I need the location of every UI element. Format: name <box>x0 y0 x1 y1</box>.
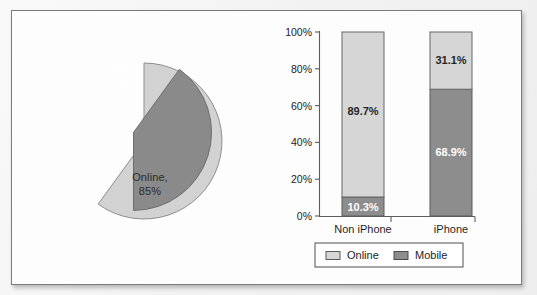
legend-label-online: Online <box>347 249 379 261</box>
pie-chart: Online, 85% Mobile, 15% <box>12 11 270 286</box>
chart-legend: Online Mobile <box>315 243 463 267</box>
legend-label-mobile: Mobile <box>415 249 447 261</box>
scanned-page-background: Online, 85% Mobile, 15% 100% <box>0 0 537 295</box>
pie-label-online-line2: 85% <box>139 185 161 197</box>
ytick-label-20: 20% <box>291 173 312 185</box>
pie-label-mobile-line2: 15% <box>106 77 128 89</box>
legend-swatch-mobile[interactable] <box>394 252 408 260</box>
pie-label-online-line1: Online, <box>132 171 168 183</box>
legend-swatch-online[interactable] <box>326 252 340 260</box>
pie-label-mobile-line1: Mobile, <box>99 63 135 75</box>
ytick-label-0: 0% <box>297 210 312 222</box>
xaxis-label-non-iphone: Non iPhone <box>334 223 392 235</box>
ytick-label-100: 100% <box>285 26 312 38</box>
ytick-label-60: 60% <box>291 100 312 112</box>
bar-label-non-iphone-online: 89.7% <box>347 105 378 117</box>
bar-label-non-iphone-mobile: 10.3% <box>347 201 378 213</box>
ytick-label-80: 80% <box>291 63 312 75</box>
bar-chart-svg: 100% 80% 60% 40% 20% 0% 89.7% 10.3% <box>270 11 521 286</box>
stacked-bar-chart: 100% 80% 60% 40% 20% 0% 89.7% 10.3% <box>270 11 521 286</box>
xaxis-label-iphone: iPhone <box>434 223 468 235</box>
bar-label-iphone-online: 31.1% <box>435 54 466 66</box>
pie-chart-svg: Online, 85% Mobile, 15% <box>12 11 270 286</box>
bar-label-iphone-mobile: 68.9% <box>435 146 466 158</box>
figure-frame: Online, 85% Mobile, 15% 100% <box>11 10 522 285</box>
ytick-label-40: 40% <box>291 136 312 148</box>
